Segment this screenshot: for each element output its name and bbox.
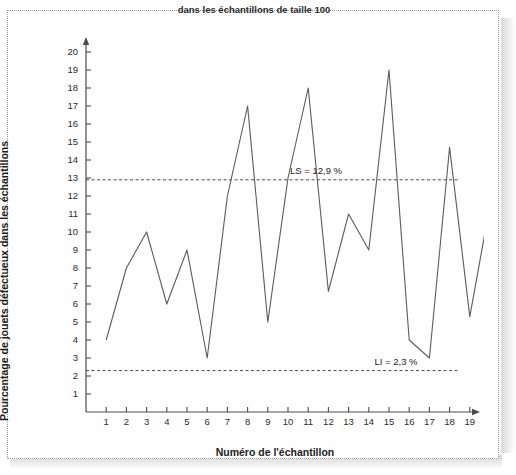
x-tick-label: 6 — [205, 416, 210, 427]
x-axis-arrow — [472, 409, 480, 415]
x-tick-label: 15 — [384, 416, 395, 427]
plot-area: 1234567891011121314151617181920123456789… — [66, 31, 484, 431]
y-tick-label: 16 — [67, 118, 78, 129]
figure-title: dans les échantillons de taille 100 — [8, 4, 500, 13]
y-tick-label: 13 — [67, 172, 78, 183]
y-tick-label: 12 — [67, 190, 78, 201]
y-tick-label: 1 — [73, 388, 78, 399]
chart-page: dans les échantillons de taille 100 Pour… — [0, 0, 516, 475]
x-tick-label: 16 — [404, 416, 415, 427]
y-tick-label: 8 — [73, 262, 78, 273]
y-tick-label: 14 — [67, 154, 78, 165]
y-tick-label: 7 — [73, 280, 78, 291]
lower-spec-limit-label: LI = 2,3 % — [374, 356, 418, 367]
figure-frame: dans les échantillons de taille 100 Pour… — [7, 10, 499, 459]
y-tick-label: 20 — [67, 46, 78, 57]
y-tick-label: 2 — [73, 370, 78, 381]
y-tick-label: 4 — [73, 334, 78, 345]
y-tick-label: 10 — [67, 226, 78, 237]
y-tick-label: 19 — [67, 64, 78, 75]
x-tick-label: 8 — [245, 416, 250, 427]
y-tick-label: 17 — [67, 100, 78, 111]
data-series-line — [106, 70, 484, 358]
x-tick-label: 19 — [465, 416, 476, 427]
y-tick-label: 9 — [73, 244, 78, 255]
x-tick-label: 2 — [124, 416, 129, 427]
x-tick-label: 4 — [164, 416, 169, 427]
y-axis-label: Pourcentage de jouets défectueux dans le… — [0, 121, 10, 421]
x-tick-label: 18 — [444, 416, 455, 427]
page-shadow-right — [501, 18, 515, 453]
x-tick-label: 5 — [184, 416, 189, 427]
x-tick-label: 3 — [144, 416, 149, 427]
y-axis-arrow — [83, 37, 89, 45]
y-tick-label: 15 — [67, 136, 78, 147]
y-tick-label: 6 — [73, 298, 78, 309]
x-tick-label: 7 — [225, 416, 230, 427]
line-chart: 1234567891011121314151617181920123456789… — [66, 31, 484, 431]
x-axis-label: Numéro de l'échantillon — [66, 446, 484, 458]
y-tick-label: 18 — [67, 82, 78, 93]
x-tick-label: 17 — [424, 416, 435, 427]
x-tick-label: 9 — [265, 416, 270, 427]
x-tick-label: 12 — [323, 416, 334, 427]
y-tick-label: 5 — [73, 316, 78, 327]
x-tick-label: 1 — [104, 416, 109, 427]
y-tick-label: 3 — [73, 352, 78, 363]
x-tick-label: 10 — [283, 416, 294, 427]
x-tick-label: 11 — [303, 416, 313, 427]
x-tick-label: 14 — [364, 416, 375, 427]
x-tick-label: 13 — [343, 416, 354, 427]
y-tick-label: 11 — [68, 208, 78, 219]
